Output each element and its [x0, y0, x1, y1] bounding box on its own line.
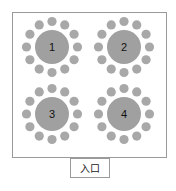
chair: [35, 87, 44, 96]
chair: [141, 30, 150, 39]
chair: [107, 131, 116, 140]
table-3: 3: [22, 84, 82, 144]
chair: [47, 84, 56, 93]
chair: [132, 64, 141, 73]
chair: [119, 17, 128, 26]
chair: [97, 55, 106, 64]
chair: [141, 55, 150, 64]
chair: [60, 20, 69, 29]
chair: [107, 64, 116, 73]
chair: [73, 109, 82, 118]
chair: [94, 109, 103, 118]
table-number: 1: [49, 41, 55, 53]
chair: [97, 122, 106, 131]
chair: [47, 17, 56, 26]
chair: [97, 97, 106, 106]
chair: [47, 68, 56, 77]
chair: [145, 42, 154, 51]
chair: [25, 122, 34, 131]
chair: [35, 64, 44, 73]
table-2: 2: [94, 17, 154, 77]
chair: [60, 131, 69, 140]
chair: [47, 135, 56, 144]
chair: [107, 20, 116, 29]
chair: [132, 87, 141, 96]
chair: [94, 42, 103, 51]
chair: [69, 97, 78, 106]
chair: [119, 135, 128, 144]
entrance-label: 入口: [80, 163, 100, 174]
table-4: 4: [94, 84, 154, 144]
chair: [22, 42, 31, 51]
chair: [97, 30, 106, 39]
chair: [145, 109, 154, 118]
chair: [119, 68, 128, 77]
tables-group: 1234: [22, 17, 154, 144]
chair: [73, 42, 82, 51]
chair: [25, 97, 34, 106]
chair: [119, 84, 128, 93]
chair: [35, 131, 44, 140]
chair: [132, 131, 141, 140]
chair: [141, 97, 150, 106]
entrance: 入口: [71, 159, 110, 178]
chair: [35, 20, 44, 29]
seating-diagram: 1234 入口: [0, 0, 176, 191]
table-number: 3: [49, 108, 55, 120]
table-1: 1: [22, 17, 82, 77]
chair: [25, 55, 34, 64]
table-number: 4: [121, 108, 127, 120]
chair: [60, 87, 69, 96]
table-number: 2: [121, 41, 127, 53]
chair: [107, 87, 116, 96]
chair: [22, 109, 31, 118]
chair: [141, 122, 150, 131]
chair: [69, 122, 78, 131]
chair: [69, 55, 78, 64]
chair: [25, 30, 34, 39]
chair: [132, 20, 141, 29]
chair: [60, 64, 69, 73]
chair: [69, 30, 78, 39]
